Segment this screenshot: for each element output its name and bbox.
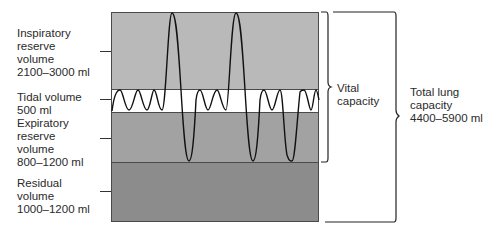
total-lung-capacity-label: Total lung capacity 4400–5900 ml [410,86,483,125]
erv-name-2: reserve [17,130,84,143]
tlc-line-2: capacity [410,99,483,112]
erv-name-1: Expiratory [17,117,84,130]
rv-name-1: Residual [17,177,90,190]
tidal-range: 500 ml [17,104,82,117]
rv-band [111,162,319,222]
tlc-range: 4400–5900 ml [410,112,483,125]
irv-label: Inspiratory reserve volume 2100–3000 ml [17,27,90,79]
vc-line-1: Vital [337,82,379,95]
tidal-name: Tidal volume [17,91,82,104]
irv-range: 2100–3000 ml [17,66,90,79]
rv-range: 1000–1200 ml [17,203,90,216]
tidal-label: Tidal volume 500 ml [17,91,82,117]
vital-capacity-bracket [321,12,331,162]
vc-line-2: capacity [337,95,379,108]
total-lung-capacity-bracket [325,12,399,222]
rv-name-2: volume [17,190,90,203]
erv-band [111,112,319,162]
irv-name-3: volume [17,53,90,66]
erv-name-3: volume [17,143,84,156]
irv-band [111,12,319,89]
vital-capacity-label: Vital capacity [337,82,379,108]
erv-label: Expiratory reserve volume 800–1200 ml [17,117,84,169]
rv-label: Residual volume 1000–1200 ml [17,177,90,216]
irv-name-2: reserve [17,40,90,53]
label-ticks [100,52,111,192]
erv-range: 800–1200 ml [17,156,84,169]
tlc-line-1: Total lung [410,86,483,99]
irv-name-1: Inspiratory [17,27,90,40]
